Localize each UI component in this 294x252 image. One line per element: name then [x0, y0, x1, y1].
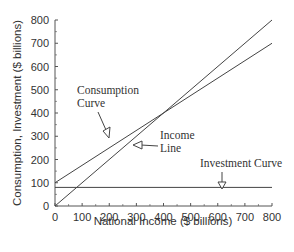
investment-label: Investment Curve	[200, 157, 282, 169]
consumption-label-line1: Consumption	[77, 84, 139, 97]
y-tick-label: 700	[31, 37, 49, 49]
y-axis-label: Consumption, Investment ($ billions)	[11, 20, 23, 206]
income-line-line	[55, 20, 272, 206]
chart: 0100200300400500600700800 01002003004005…	[0, 0, 294, 252]
consumption-label-line2: Curve	[77, 97, 105, 109]
x-axis-label: National Income ($ billions)	[94, 215, 233, 227]
y-tick-label: 300	[31, 130, 49, 142]
consumption-arrow-shaft	[98, 112, 106, 130]
y-tick-label: 500	[31, 84, 49, 96]
consumption-arrow-icon	[103, 127, 110, 138]
income-arrow-icon	[133, 141, 142, 149]
x-tick-label: 0	[52, 211, 58, 223]
y-tick-label: 400	[31, 107, 49, 119]
x-tick-label: 800	[263, 211, 281, 223]
investment-arrow-icon	[218, 182, 226, 189]
income-label-line1: Income	[160, 129, 194, 141]
y-tick-label: 100	[31, 177, 49, 189]
income-arrow-shaft	[141, 145, 158, 146]
y-axis-ticks: 0100200300400500600700800	[31, 14, 58, 212]
income-label-line2: Line	[160, 142, 181, 154]
series-lines	[55, 20, 272, 206]
x-tick-label: 700	[236, 211, 254, 223]
y-tick-label: 600	[31, 61, 49, 73]
y-tick-label: 800	[31, 14, 49, 26]
y-tick-label: 200	[31, 154, 49, 166]
y-tick-label: 0	[43, 200, 49, 212]
x-tick-label: 100	[73, 211, 91, 223]
